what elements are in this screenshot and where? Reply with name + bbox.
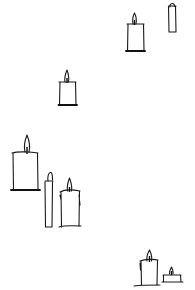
candle-body: [60, 190, 80, 227]
candle-6: [59, 178, 81, 227]
candle-body: [127, 24, 144, 51]
candle-base: [134, 285, 160, 286]
candle-base: [59, 226, 81, 227]
candle-body: [162, 275, 183, 282]
candle-body: [45, 181, 53, 227]
candle-sketch-canvas: [0, 0, 195, 290]
candle-2: [169, 4, 177, 32]
candle-8: [162, 267, 183, 282]
candle-body: [169, 6, 177, 32]
candle-body: [140, 259, 158, 285]
wick-loop-icon: [48, 172, 53, 181]
candle-body: [59, 82, 76, 105]
candle-7: [134, 250, 160, 286]
candle-5: [45, 172, 53, 227]
candle-4: [11, 135, 40, 190]
candle-3: [59, 70, 78, 105]
candle-1: [126, 13, 145, 51]
candle-body: [12, 152, 38, 190]
